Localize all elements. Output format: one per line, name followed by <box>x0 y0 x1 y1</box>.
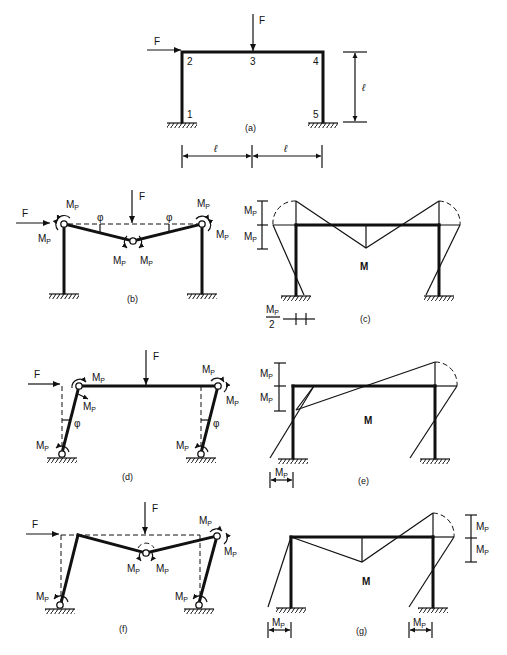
moment-diagram-label: M <box>360 261 368 272</box>
fixed-support-1 <box>167 123 197 128</box>
caption-g: (g) <box>356 626 367 636</box>
svg-text:MP: MP <box>140 255 153 267</box>
plastic-hinge <box>61 221 67 227</box>
svg-text:F: F <box>22 208 28 219</box>
caption-c: (c) <box>360 314 371 324</box>
svg-text:F: F <box>34 369 40 380</box>
caption-e: (e) <box>358 476 369 486</box>
angle-phi-right: φ <box>166 212 173 223</box>
svg-text:MP: MP <box>260 392 273 404</box>
plastic-collapse-figure: F F 2 3 4 1 5 (a) ℓ ℓ ℓ φ φ <box>0 0 507 655</box>
moment-arrow-icon <box>211 378 224 382</box>
node-1: 1 <box>187 109 193 120</box>
svg-text:MP: MP <box>272 617 285 629</box>
svg-text:MP: MP <box>127 563 140 575</box>
load-label-v: F <box>259 15 265 26</box>
svg-text:F: F <box>153 351 159 362</box>
panel-f: F F MP MP MP MP MP MP (f) <box>26 502 237 634</box>
svg-text:MP: MP <box>413 617 426 629</box>
span-label-1: ℓ <box>213 143 218 154</box>
height-label: ℓ <box>361 82 366 93</box>
svg-text:MP: MP <box>224 546 237 558</box>
svg-text:MP: MP <box>226 395 239 407</box>
svg-text:MP: MP <box>113 255 126 267</box>
caption-a: (a) <box>245 123 256 133</box>
node-3: 3 <box>250 56 256 67</box>
svg-text:MP: MP <box>244 231 257 243</box>
svg-text:MP: MP <box>176 440 189 452</box>
svg-text:MP: MP <box>92 372 105 384</box>
column-moment-left <box>268 537 291 607</box>
node-5: 5 <box>313 109 319 120</box>
svg-text:MP: MP <box>202 364 215 376</box>
panel-c: M MP MP MP 2 (c) <box>244 201 460 330</box>
plastic-hinge <box>199 221 205 227</box>
node-2: 2 <box>187 56 193 67</box>
svg-text:MP: MP <box>38 233 51 245</box>
svg-text:2: 2 <box>269 319 275 330</box>
load-label-h: F <box>154 36 160 47</box>
caption-d: (d) <box>122 472 133 482</box>
angle-phi-left: φ <box>97 212 104 223</box>
span-label-2: ℓ <box>283 143 288 154</box>
svg-text:MP: MP <box>175 591 188 603</box>
svg-text:MP: MP <box>275 467 288 479</box>
plastic-hinge <box>130 238 136 244</box>
column-moment-right <box>426 225 460 295</box>
svg-text:MP: MP <box>266 304 279 316</box>
node-4: 4 <box>313 56 319 67</box>
svg-text:F: F <box>32 519 38 530</box>
moment-arrow-icon <box>208 219 211 231</box>
svg-text:MP: MP <box>66 199 79 211</box>
svg-text:MP: MP <box>476 521 489 533</box>
moment-arrow-icon <box>57 216 70 220</box>
panel-a: F F 2 3 4 1 5 (a) ℓ ℓ ℓ <box>147 14 367 168</box>
svg-text:M: M <box>362 576 370 587</box>
moment-arrow-icon <box>139 553 141 561</box>
svg-text:φ: φ <box>74 418 81 429</box>
fixed-support-5 <box>308 123 338 128</box>
moment-arrow-icon <box>196 216 209 220</box>
caption-f: (f) <box>119 624 128 634</box>
moment-arrow-icon <box>210 529 222 532</box>
moment-arrow-icon <box>56 219 58 230</box>
column-moment-left <box>273 225 304 295</box>
svg-text:MP: MP <box>36 591 49 603</box>
panel-g: M MP MP MP MP (g) <box>268 513 489 638</box>
svg-text:MP: MP <box>83 401 96 413</box>
svg-text:MP: MP <box>197 198 210 210</box>
svg-text:F: F <box>139 191 145 202</box>
svg-text:MP: MP <box>156 563 169 575</box>
svg-text:MP: MP <box>244 205 257 217</box>
svg-text:MP: MP <box>476 544 489 556</box>
panel-d: φ φ F F MP MP MP MP MP MP (d) <box>28 350 239 482</box>
moment-arrow-icon <box>151 553 153 561</box>
panel-b: φ φ F F MP MP MP MP MP MP (b) <box>16 190 229 304</box>
panel-e: M MP MP MP (e) <box>260 362 457 488</box>
svg-text:MP: MP <box>260 368 273 380</box>
caption-b: (b) <box>127 294 138 304</box>
svg-text:M: M <box>364 415 372 426</box>
svg-text:φ: φ <box>213 418 220 429</box>
svg-text:MP: MP <box>36 440 49 452</box>
svg-text:F: F <box>152 503 158 514</box>
svg-text:MP: MP <box>199 515 212 527</box>
svg-text:MP: MP <box>216 229 229 241</box>
